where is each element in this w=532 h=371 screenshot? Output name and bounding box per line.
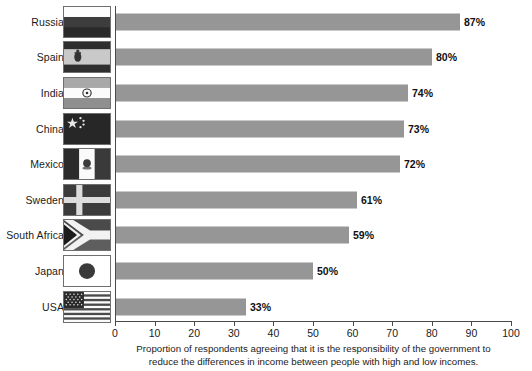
x-tick-label: 20 (188, 327, 200, 339)
bar-russia (115, 13, 460, 30)
bar-sweden (115, 191, 357, 208)
bar-india (115, 84, 408, 101)
chart-row: Russia 87% (0, 4, 532, 40)
bar-value-south-africa: 59% (353, 229, 374, 241)
x-tick-label: 10 (149, 327, 161, 339)
bar-value-sweden: 61% (361, 194, 382, 206)
caption-line-1: Proportion of respondents agreeing that … (115, 343, 512, 356)
x-tick-label: 30 (228, 327, 240, 339)
category-label-usa: USA (0, 301, 64, 313)
x-tick (432, 321, 433, 326)
x-tick-label: 60 (347, 327, 359, 339)
chart-row: Sweden 61% (0, 182, 532, 218)
x-tick (353, 321, 354, 326)
x-tick-label: 0 (112, 327, 118, 339)
bar-value-china: 73% (408, 123, 429, 135)
category-label-south-africa: South Africa (0, 229, 64, 241)
bar-usa (115, 298, 246, 315)
flag-sweden-icon (63, 184, 111, 216)
category-label-mexico: Mexico (0, 158, 64, 170)
bar-value-india: 74% (412, 87, 433, 99)
x-tick-label: 40 (268, 327, 280, 339)
bar-japan (115, 262, 313, 279)
bar-china (115, 120, 404, 137)
category-label-india: India (0, 87, 64, 99)
bar-spain (115, 49, 432, 66)
category-label-spain: Spain (0, 51, 64, 63)
flag-spain-icon (63, 41, 111, 73)
category-label-sweden: Sweden (0, 194, 64, 206)
bar-south-africa (115, 227, 349, 244)
x-tick-label: 50 (307, 327, 319, 339)
category-label-china: China (0, 123, 64, 135)
flag-india-icon (63, 77, 111, 109)
chart-row: USA (0, 289, 532, 325)
x-axis-caption: Proportion of respondents agreeing that … (115, 343, 512, 368)
chart-row: Japan 50% (0, 253, 532, 289)
flag-south-africa-icon (63, 219, 111, 251)
chart-row: China 73% (0, 111, 532, 147)
category-label-japan: Japan (0, 265, 64, 277)
flag-japan-icon (63, 255, 111, 287)
chart-row: India 74% (0, 75, 532, 111)
bar-value-mexico: 72% (404, 158, 425, 170)
bar-value-japan: 50% (317, 265, 338, 277)
category-label-russia: Russia (0, 16, 64, 28)
flag-china-icon (63, 113, 111, 145)
chart-row: Spain 80% (0, 40, 532, 76)
x-tick-label: 90 (466, 327, 478, 339)
x-tick (313, 321, 314, 326)
x-tick (155, 321, 156, 326)
bar-value-spain: 80% (436, 51, 457, 63)
bar-mexico (115, 156, 400, 173)
y-axis-line (115, 6, 116, 321)
bar-chart: Russia 87% Spain 8 (0, 0, 532, 371)
caption-line-2: reduce the differences in income between… (115, 356, 512, 369)
x-tick-label: 100 (502, 327, 520, 339)
x-tick-label: 70 (386, 327, 398, 339)
x-tick (194, 321, 195, 326)
x-tick (115, 321, 116, 326)
x-tick (511, 321, 512, 326)
flag-mexico-icon (63, 148, 111, 180)
x-tick (273, 321, 274, 326)
bar-value-russia: 87% (464, 16, 485, 28)
x-tick (471, 321, 472, 326)
x-tick (392, 321, 393, 326)
x-tick (234, 321, 235, 326)
chart-row: Mexico 72% (0, 146, 532, 182)
bar-value-usa: 33% (250, 301, 271, 313)
chart-row: South Africa 59% (0, 218, 532, 254)
flag-usa-icon (63, 291, 111, 323)
flag-russia-icon (63, 6, 111, 38)
x-tick-label: 80 (426, 327, 438, 339)
